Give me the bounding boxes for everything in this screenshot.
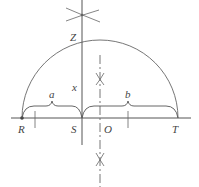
label-r: R [17,123,25,135]
label-z: Z [70,31,77,43]
label-s: S [71,123,77,135]
brace-b [82,101,178,118]
label-a: a [49,88,55,100]
label-x: x [71,81,77,93]
top-arc-intersection-mark [66,8,100,22]
label-b: b [125,88,131,100]
construction-diagram: Z x a b R S O T [0,0,199,187]
brace-a [22,101,82,118]
label-o: O [104,123,112,135]
label-t: T [172,123,179,135]
